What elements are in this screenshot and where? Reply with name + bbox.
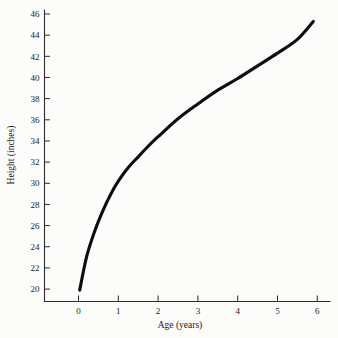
y-tick-label: 38	[31, 94, 41, 104]
y-tick-label: 36	[31, 115, 41, 125]
y-tick-label: 22	[31, 263, 40, 273]
chart-background	[0, 0, 338, 338]
y-tick-label: 42	[31, 52, 40, 62]
x-tick-label: 0	[76, 306, 81, 316]
x-tick-label: 6	[315, 306, 320, 316]
y-axis-title: Height (inches)	[6, 126, 17, 185]
y-tick-label: 20	[31, 284, 41, 294]
y-tick-label: 40	[31, 73, 41, 83]
y-tick-label: 46	[31, 9, 41, 19]
y-tick-label: 28	[31, 200, 41, 210]
x-tick-label: 3	[196, 306, 201, 316]
y-tick-label: 34	[31, 136, 41, 146]
chart-figure: 2022242628303234363840424446 Height (inc…	[0, 0, 338, 338]
y-tick-label: 30	[31, 178, 41, 188]
height-vs-age-line-chart: 2022242628303234363840424446 Height (inc…	[0, 0, 338, 338]
y-tick-label: 24	[31, 242, 41, 252]
y-tick-label: 44	[31, 30, 41, 40]
y-tick-label: 26	[31, 221, 41, 231]
x-tick-label: 5	[275, 306, 280, 316]
x-axis-title: Age (years)	[158, 320, 203, 331]
x-tick-label: 2	[156, 306, 161, 316]
y-tick-label: 32	[31, 157, 40, 167]
x-tick-label: 4	[235, 306, 240, 316]
x-tick-label: 1	[116, 306, 121, 316]
